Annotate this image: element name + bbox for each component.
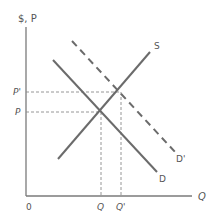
p-label: P bbox=[15, 107, 21, 117]
origin-label: 0 bbox=[26, 202, 32, 212]
p-prime-label: P' bbox=[13, 87, 21, 97]
supply-curve bbox=[58, 52, 150, 159]
demand-prime-label: D' bbox=[176, 154, 185, 164]
supply-demand-diagram: $, P Q 0 P' P Q Q' S D D' bbox=[0, 0, 213, 221]
y-axis-label: $, P bbox=[18, 13, 37, 24]
x-axis-label: Q bbox=[198, 191, 206, 202]
demand-label: D bbox=[159, 174, 166, 184]
q-label: Q bbox=[97, 202, 104, 212]
q-prime-label: Q' bbox=[116, 202, 126, 212]
supply-label: S bbox=[154, 41, 160, 51]
